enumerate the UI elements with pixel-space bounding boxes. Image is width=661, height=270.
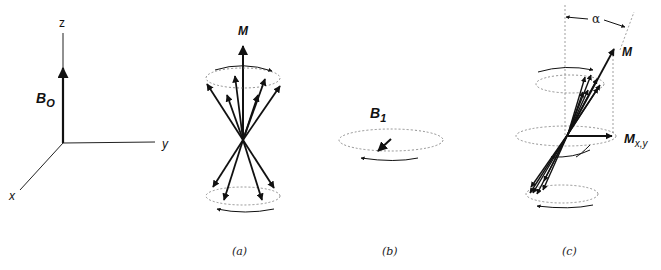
lower-cone-ellipse (206, 187, 280, 205)
panel-b-rf-field: B1 (b) (339, 105, 443, 258)
panel-c-tipped-magnetization: α M (516, 5, 649, 258)
spin-vector (544, 134, 568, 181)
spin-vector (224, 140, 243, 200)
alpha-angle-label: α (592, 12, 600, 26)
lower-spin-vectors (213, 140, 274, 200)
spin-vector (243, 140, 274, 188)
spin-vector (243, 140, 262, 200)
spin-vector (243, 86, 280, 140)
panel-a-caption: (a) (232, 245, 247, 258)
nmr-precession-diagram: z y x BO M (a) B1 (0, 0, 661, 270)
lower-spin-bundle (530, 134, 568, 194)
upper-spin-bundle (568, 75, 600, 134)
b1-label: B1 (370, 105, 386, 124)
b1-rotation-arrow (361, 158, 418, 161)
coordinate-axes: z y x BO (8, 16, 169, 203)
upper-rotation-arrow (538, 67, 593, 72)
lower-rotation-arrow (217, 209, 274, 212)
panel-c-caption: (c) (562, 245, 577, 258)
x-axis (20, 143, 63, 190)
panel-a-precession-cones: M (a) (206, 24, 280, 258)
spin-vector (213, 140, 243, 187)
panel-b-caption: (b) (382, 245, 398, 258)
b1-field-arrow (378, 139, 391, 151)
z-axis-label: z (59, 16, 65, 30)
spin-vector (530, 134, 568, 193)
lower-rotation-arrow (537, 205, 593, 208)
b0-label: BO (36, 90, 55, 109)
y-axis (63, 142, 155, 143)
x-axis-label: x (8, 189, 16, 203)
panel-c-m-label: M (622, 45, 633, 59)
panel-a-m-label: M (238, 24, 249, 38)
alpha-arrow-right (604, 20, 625, 27)
y-axis-label: y (161, 137, 169, 151)
mxy-label: Mx,y (624, 131, 649, 149)
alpha-arrow-left (566, 17, 588, 19)
